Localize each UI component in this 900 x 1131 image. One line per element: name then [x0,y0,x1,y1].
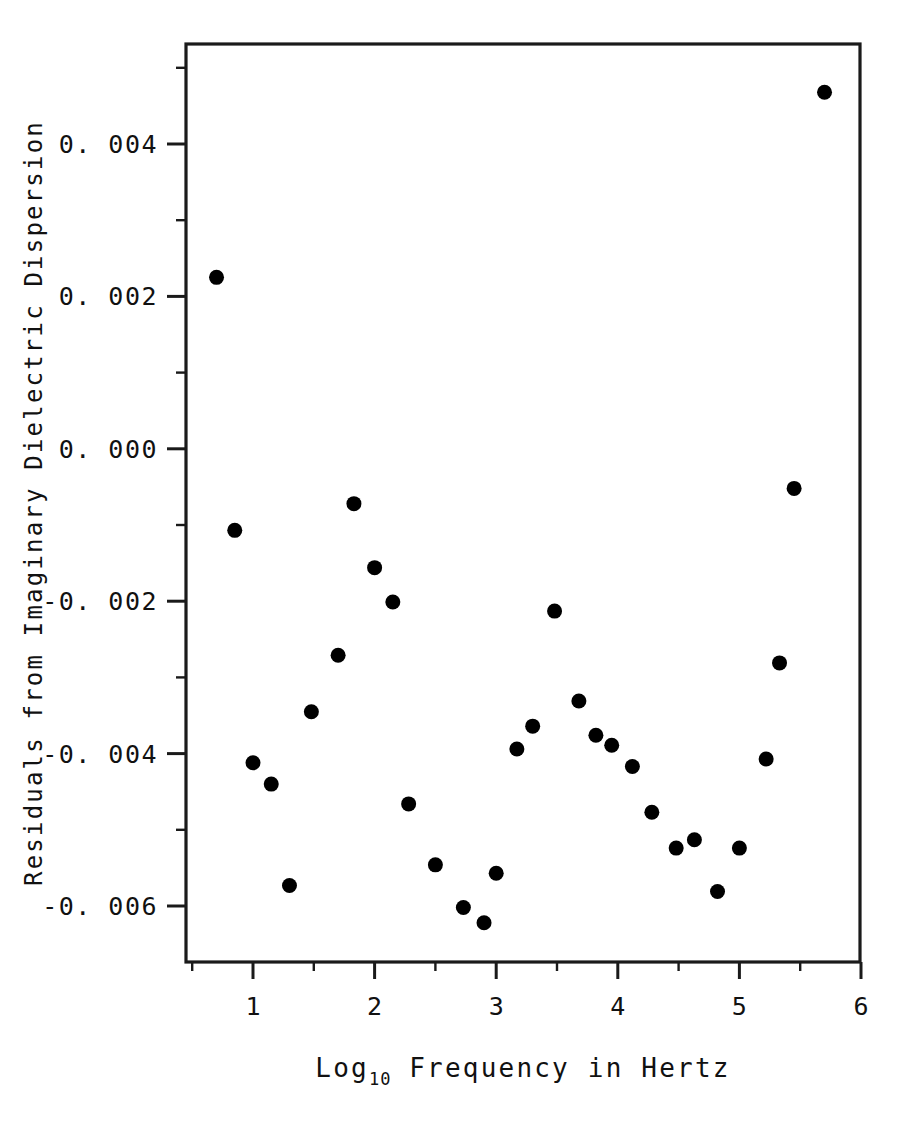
x-tick-label-2: 2 [367,992,382,1021]
y-tick-label-2: 0. 000 [59,435,158,464]
data-point [571,694,586,709]
x-axis-label-subscript: 10 [369,1069,391,1089]
data-point [304,704,319,719]
data-point [477,915,492,930]
data-point [509,742,524,757]
data-point [644,805,659,820]
data-point [367,560,382,575]
scatter-plot-figure: 123456 0. 0040. 0020. 000-0. 002-0. 004-… [0,0,900,1131]
data-point [428,857,443,872]
data-point [710,884,725,899]
data-point [817,85,832,100]
x-axis-label-base: Log [315,1053,369,1083]
data-point [489,866,504,881]
y-tick-label-4: -0. 004 [42,740,158,769]
data-point [385,594,400,609]
data-point [346,496,361,511]
x-tick-label-4: 4 [610,992,625,1021]
data-point [604,738,619,753]
data-point [209,270,224,285]
data-point [525,719,540,734]
data-point [331,648,346,663]
data-point [456,900,471,915]
y-tick-label-0: 0. 004 [59,130,158,159]
x-tick-label-5: 5 [732,992,747,1021]
data-point [759,751,774,766]
y-tick-label-1: 0. 002 [59,282,158,311]
data-point [669,841,684,856]
y-tick-label-5: -0. 006 [42,892,158,921]
plot-canvas: 123456 0. 0040. 0020. 000-0. 002-0. 004-… [0,0,900,1131]
data-point [772,655,787,670]
x-tick-label-1: 1 [245,992,260,1021]
data-point [282,878,297,893]
data-point [687,832,702,847]
x-axis-label-rest: Frequency in Hertz [391,1053,730,1083]
y-tick-label-3: -0. 002 [42,587,158,616]
data-point [547,604,562,619]
y-axis-label: Residuals from Imaginary Dielectric Disp… [20,120,48,886]
y-axis-label-text: Residuals from Imaginary Dielectric Disp… [20,120,48,886]
x-tick-label-6: 6 [853,992,868,1021]
x-tick-label-3: 3 [489,992,504,1021]
data-point [588,728,603,743]
data-point [787,481,802,496]
data-point [264,777,279,792]
data-point [625,759,640,774]
data-point [246,755,261,770]
data-point [732,841,747,856]
data-point [227,523,242,538]
data-point [401,796,416,811]
